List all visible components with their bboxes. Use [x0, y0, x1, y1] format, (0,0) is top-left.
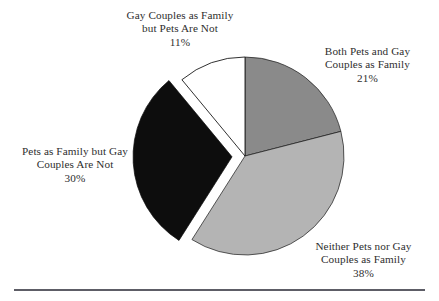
label-line-1: Pets as Family but Gay — [2, 145, 148, 158]
label-line-2: but Pets Are Not — [100, 22, 260, 35]
label-percent: 11% — [100, 36, 260, 49]
label-line-1: Both Pets and Gay — [296, 45, 439, 58]
pie-label-gay-couples-as-family-but-pets-not: Gay Couples as Family but Pets Are Not 1… — [100, 9, 260, 49]
pie-label-pets-as-family-but-gay-couples-not: Pets as Family but Gay Couples Are Not 3… — [2, 145, 148, 185]
label-line-2: Couples Are Not — [2, 158, 148, 171]
figure-bottom-rule — [14, 289, 425, 291]
label-line-1: Neither Pets nor Gay — [288, 240, 439, 253]
pie-label-neither-pets-nor-gay-couples: Neither Pets nor Gay Couples as Family 3… — [288, 240, 439, 280]
label-percent: 38% — [288, 267, 439, 280]
label-percent: 21% — [296, 72, 439, 85]
label-line-2: Couples as Family — [296, 58, 439, 71]
label-line-1: Gay Couples as Family — [100, 9, 260, 22]
label-percent: 30% — [2, 172, 148, 185]
pie-chart-figure: Gay Couples as Family but Pets Are Not 1… — [0, 0, 439, 301]
pie-label-both-pets-and-gay-couples: Both Pets and Gay Couples as Family 21% — [296, 45, 439, 85]
label-line-2: Couples as Family — [288, 253, 439, 266]
